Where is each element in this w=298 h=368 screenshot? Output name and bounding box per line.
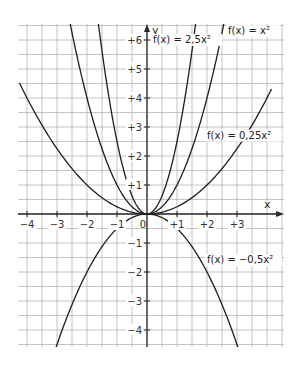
y-tick-label: +5 bbox=[127, 64, 142, 75]
function-label: f(x) = −0,5x² bbox=[207, 254, 273, 265]
x-tick-label: −3 bbox=[50, 219, 65, 230]
y-tick-label: +3 bbox=[127, 122, 142, 133]
y-tick-label: +1 bbox=[127, 180, 142, 191]
y-tick-label: −3 bbox=[127, 296, 142, 307]
y-tick-label: −2 bbox=[127, 267, 142, 278]
function-label: f(x) = 2,5x² bbox=[153, 34, 211, 45]
x-tick-label: −4 bbox=[20, 219, 35, 230]
y-tick-label: +6 bbox=[127, 35, 142, 46]
y-tick-label: +2 bbox=[127, 151, 142, 162]
x-tick-label: +3 bbox=[230, 219, 245, 230]
function-label: f(x) = x² bbox=[228, 25, 270, 36]
x-tick-label: +2 bbox=[200, 219, 215, 230]
y-tick-label: −4 bbox=[127, 325, 142, 336]
x-tick-label: +1 bbox=[170, 219, 185, 230]
function-label: f(x) = 0,25x² bbox=[207, 130, 271, 141]
y-tick-label: −1 bbox=[127, 238, 142, 249]
x-axis-label: x bbox=[264, 198, 271, 211]
parabola-chart: xy −4−3−2−1+1+2+3+6+5+4+3+2+1−1−2−3−40 f… bbox=[0, 0, 298, 368]
chart-background bbox=[0, 0, 298, 368]
origin-label: 0 bbox=[140, 219, 146, 230]
x-tick-label: −2 bbox=[80, 219, 95, 230]
x-tick-label: −1 bbox=[110, 219, 125, 230]
y-tick-label: +4 bbox=[127, 93, 142, 104]
